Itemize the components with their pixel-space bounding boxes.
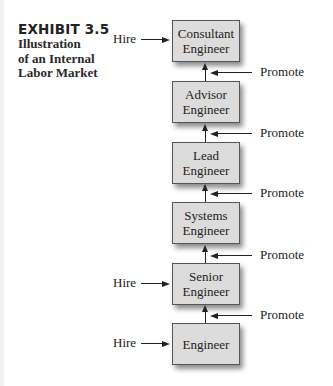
box-consultant-engineer: Consultant Engineer [172, 20, 240, 62]
promote-label: Promote [260, 185, 304, 201]
box-lead-engineer: Lead Engineer [172, 142, 240, 184]
hire-label: Hire [113, 31, 136, 47]
caption-line: Illustration [18, 37, 98, 52]
hire-arrow [141, 39, 163, 40]
arrow-right-icon [162, 341, 170, 347]
promote-arrow [218, 315, 252, 316]
box-label: Advisor [185, 87, 227, 102]
promote-arrow [218, 255, 252, 256]
caption-line: of an Internal [18, 52, 98, 67]
hire-arrow [141, 343, 163, 344]
box-engineer: Engineer [172, 323, 240, 365]
box-systems-engineer: Systems Engineer [172, 202, 240, 244]
box-label: Engineer [183, 163, 230, 178]
hire-label: Hire [113, 335, 136, 351]
box-label: Engineer [183, 223, 230, 238]
caption-line: Labor Market [18, 66, 98, 81]
promote-label: Promote [260, 125, 304, 141]
arrow-head-icon [202, 184, 208, 191]
exhibit-label: EXHIBIT 3.5 [18, 21, 109, 37]
arrow-head-icon [202, 305, 208, 312]
arrow-left-icon [210, 131, 218, 137]
promote-label: Promote [260, 247, 304, 263]
arrow-left-icon [210, 191, 218, 197]
arrow-left-icon [210, 70, 218, 76]
box-label: Consultant [178, 26, 234, 41]
arrow-head-icon [202, 124, 208, 131]
promote-arrow [218, 133, 252, 134]
arrow-head-icon [202, 63, 208, 70]
box-label: Engineer [183, 41, 230, 56]
arrow-right-icon [162, 37, 170, 43]
arrow-left-icon [210, 313, 218, 319]
hire-label: Hire [113, 275, 136, 291]
box-senior-engineer: Senior Engineer [172, 263, 240, 305]
box-label: Senior [189, 269, 223, 284]
box-label: Lead [193, 148, 219, 163]
exhibit-caption: Illustration of an Internal Labor Market [18, 37, 98, 81]
box-advisor-engineer: Advisor Engineer [172, 81, 240, 123]
box-label: Engineer [183, 284, 230, 299]
promote-label: Promote [260, 307, 304, 323]
promote-label: Promote [260, 64, 304, 80]
arrow-left-icon [210, 253, 218, 259]
promote-arrow [218, 72, 252, 73]
box-label: Systems [184, 208, 227, 223]
arrow-head-icon [202, 245, 208, 252]
promote-arrow [218, 193, 252, 194]
hire-arrow [141, 283, 163, 284]
box-label: Engineer [183, 337, 230, 352]
page-edge [0, 0, 4, 386]
box-label: Engineer [183, 102, 230, 117]
arrow-right-icon [162, 281, 170, 287]
